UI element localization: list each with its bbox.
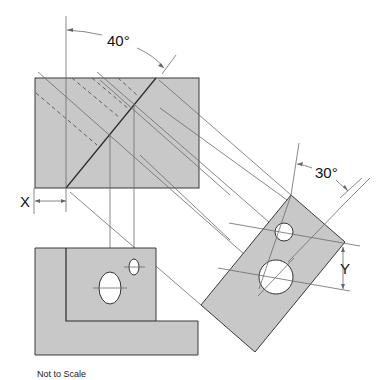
- y-dimension: Y: [340, 247, 350, 289]
- not-to-scale-note: Not to Scale: [37, 369, 86, 379]
- front-view: [35, 248, 198, 355]
- angle-30-label: 30°: [315, 164, 338, 181]
- x-dimension: X: [20, 188, 66, 214]
- technical-drawing: 40° X 30°: [0, 0, 380, 380]
- angle-40-dimension: 40°: [67, 28, 176, 74]
- top-view-body: [35, 78, 199, 188]
- auxiliary-view: [201, 143, 370, 352]
- angle-40-label: 40°: [107, 32, 130, 49]
- aux-small-hole: [275, 223, 293, 241]
- angle-30-dimension: 30°: [297, 162, 362, 198]
- dim-y-label: Y: [340, 260, 350, 277]
- dim-x-label: X: [20, 193, 30, 210]
